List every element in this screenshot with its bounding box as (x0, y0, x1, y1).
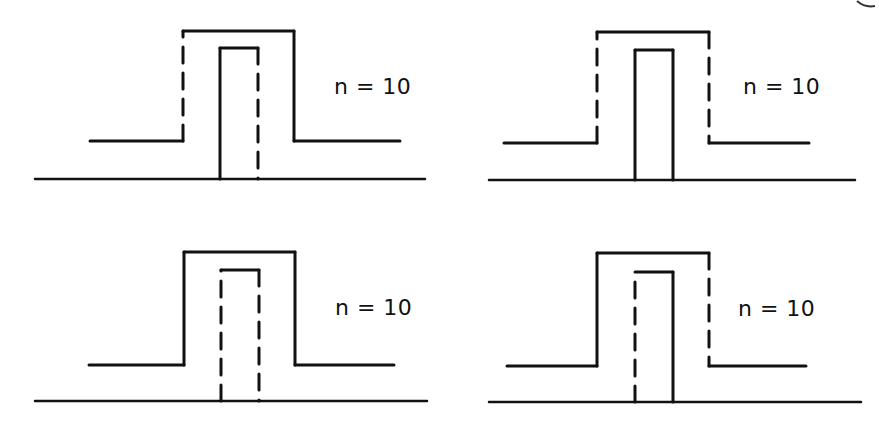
panel-bottom-left: n = 10 (0, 210, 440, 421)
waveguide-profile-diagram (440, 0, 879, 210)
panel-top-right: n = 10 (440, 0, 879, 210)
n-label: n = 10 (334, 74, 411, 99)
scan-mark (855, 0, 879, 14)
n-label: n = 10 (738, 296, 815, 321)
panel-bottom-right: n = 10 (440, 210, 879, 421)
waveguide-profile-diagram (0, 0, 440, 210)
panel-top-left: n = 10 (0, 0, 440, 210)
n-label: n = 10 (335, 295, 412, 320)
n-label: n = 10 (743, 74, 820, 99)
